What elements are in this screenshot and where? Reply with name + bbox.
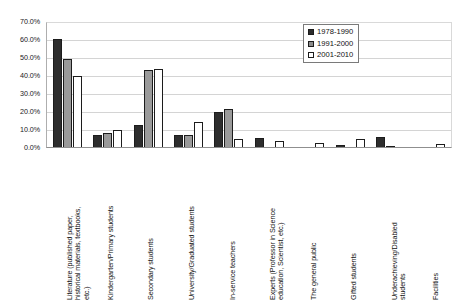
bar bbox=[73, 76, 82, 147]
y-axis-tick-label: 20.0% bbox=[0, 108, 40, 115]
bar bbox=[134, 125, 143, 147]
x-axis-tick-label: Experts (Professor in Science education,… bbox=[269, 152, 286, 300]
bar bbox=[103, 133, 112, 147]
bar bbox=[376, 137, 385, 147]
x-axis-cell: Experts (Professor in Science education,… bbox=[249, 150, 290, 302]
x-axis-cell: In-service teachers bbox=[208, 150, 249, 302]
bar-group bbox=[128, 23, 168, 147]
bar-group bbox=[209, 23, 249, 147]
bar bbox=[214, 112, 223, 147]
bar-group bbox=[249, 23, 289, 147]
legend-item: 1991-2000 bbox=[308, 40, 353, 48]
y-axis-tick-label: 40.0% bbox=[0, 72, 40, 79]
bar bbox=[255, 138, 264, 147]
x-axis-cell: Secondary students bbox=[127, 150, 168, 302]
bar bbox=[275, 141, 284, 147]
bar bbox=[154, 69, 163, 147]
bar bbox=[224, 109, 233, 147]
x-axis: Literature (published paper, historical … bbox=[46, 150, 452, 302]
bar-group bbox=[168, 23, 208, 147]
bar bbox=[194, 122, 203, 147]
x-axis-tick-label: Gifted students bbox=[350, 152, 358, 300]
x-axis-cell: Kindergarten/Primary students bbox=[87, 150, 128, 302]
bar bbox=[63, 59, 72, 147]
y-axis-tick-label: 50.0% bbox=[0, 54, 40, 61]
x-axis-tick-label: University/Graduated students bbox=[188, 152, 196, 300]
x-axis-cell: Facilities bbox=[411, 150, 452, 302]
x-axis-tick-label: Underachieving/Disabled students bbox=[391, 152, 408, 300]
y-axis-tick-label: 10.0% bbox=[0, 126, 40, 133]
y-axis-tick-label: 0.0% bbox=[0, 144, 40, 151]
bar bbox=[356, 139, 365, 147]
x-axis-tick-label: Facilities bbox=[432, 152, 440, 300]
bar-group bbox=[87, 23, 127, 147]
legend: 1978-19901991-20002001-2010 bbox=[303, 24, 359, 63]
legend-label: 1991-2000 bbox=[317, 40, 353, 48]
y-axis-tick-label: 30.0% bbox=[0, 90, 40, 97]
legend-swatch-icon bbox=[308, 41, 314, 47]
x-axis-tick-label: Kindergarten/Primary students bbox=[107, 152, 115, 300]
plot-area bbox=[46, 22, 452, 148]
x-axis-cell: Literature (published paper, historical … bbox=[46, 150, 87, 302]
y-axis-tick-label: 70.0% bbox=[0, 18, 40, 25]
y-axis-tick-label: 60.0% bbox=[0, 36, 40, 43]
bar bbox=[53, 39, 62, 147]
x-axis-tick-label: In-service teachers bbox=[229, 152, 237, 300]
x-axis-cell: Underachieving/Disabled students bbox=[371, 150, 412, 302]
bar bbox=[436, 144, 445, 147]
bar-groups bbox=[47, 23, 451, 147]
legend-label: 2001-2010 bbox=[317, 51, 353, 59]
bar bbox=[93, 135, 102, 147]
y-axis: 0.0%10.0%20.0%30.0%40.0%50.0%60.0%70.0% bbox=[0, 22, 44, 148]
bar bbox=[184, 135, 193, 147]
bar bbox=[234, 139, 243, 147]
legend-swatch-icon bbox=[308, 29, 314, 35]
x-axis-cell: The general public bbox=[290, 150, 331, 302]
bar bbox=[315, 143, 324, 147]
legend-item: 1978-1990 bbox=[308, 28, 353, 36]
bar bbox=[174, 135, 183, 147]
legend-item: 2001-2010 bbox=[308, 51, 353, 59]
x-axis-tick-label: The general public bbox=[310, 152, 318, 300]
bar-group bbox=[370, 23, 410, 147]
bar bbox=[144, 70, 153, 147]
bar bbox=[336, 145, 345, 147]
x-axis-cell: University/Graduated students bbox=[168, 150, 209, 302]
bar bbox=[113, 130, 122, 147]
legend-swatch-icon bbox=[308, 52, 314, 58]
bar-chart: 0.0%10.0%20.0%30.0%40.0%50.0%60.0%70.0% … bbox=[0, 0, 460, 304]
legend-label: 1978-1990 bbox=[317, 28, 353, 36]
bar-group bbox=[411, 23, 451, 147]
bar bbox=[386, 146, 395, 147]
x-axis-tick-label: Secondary students bbox=[147, 152, 155, 300]
x-axis-cell: Gifted students bbox=[330, 150, 371, 302]
bar-group bbox=[47, 23, 87, 147]
